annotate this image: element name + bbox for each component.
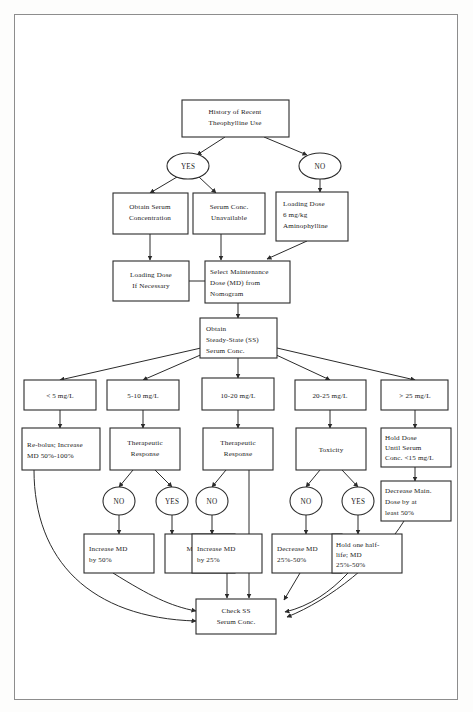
node-check-ss-line1: Check SS [222, 607, 251, 615]
edge-history-to-yes [197, 137, 225, 155]
node-loading-dose-line1: Loading Dose [283, 200, 325, 208]
node-loading-dose-line2: 6 mg/kg [283, 211, 308, 219]
node-obtain-ss-line3: Serum Conc. [206, 347, 245, 355]
node-therapeutic-b-line2: Response [224, 450, 252, 458]
node-decrease-main-line3: least 50% [385, 509, 414, 517]
edge-decrease-md-to-check-ss [284, 573, 300, 600]
node-obtain-serum-line1: Obtain Serum [129, 203, 171, 211]
node-no-history[interactable]: NO [299, 153, 341, 179]
node-yes-toxicity-label: YES [351, 498, 365, 506]
node-select-md-line1: Select Maintenance [210, 268, 268, 276]
node-check-ss-serum-conc[interactable]: Check SS Serum Conc. [196, 599, 276, 634]
edge-toxicity-to-yes [342, 470, 358, 487]
node-increase-md-50[interactable]: Increase MD by 50% [84, 534, 154, 573]
edge-hold-half-life-to-check-ss [285, 573, 348, 612]
node-range-20-25-label: 20-25 mg/L [312, 392, 347, 400]
node-decrease-maintenance-dose[interactable]: Decrease Main. Dose by at least 50% [381, 481, 451, 521]
node-rebolus-line1: Re-bolus; Increase [27, 441, 83, 449]
node-no-toxicity[interactable]: NO [290, 487, 322, 515]
edge-ss-to-gt25 [277, 348, 415, 380]
node-obtain-steady-state[interactable]: Obtain Steady-State (SS) Serum Conc. [200, 318, 277, 358]
node-increase-25-line2: by 25% [197, 556, 220, 564]
node-hold-half-line2: life; MD [336, 551, 362, 559]
node-range-10-20[interactable]: 10-20 mg/L [202, 378, 274, 410]
edge-therapeutic-a-to-no [119, 470, 133, 487]
node-serum-conc-unavailable[interactable]: Serum Conc. Unavailable [193, 193, 265, 234]
node-range-gt-25[interactable]: > 25 mg/L [381, 380, 448, 410]
node-history-line1: History of Recent [209, 108, 262, 116]
node-decrease-md-line1: Decrease MD [277, 545, 318, 553]
edge-yes-to-obtain-serum [150, 177, 177, 193]
edge-ss-to-20-25 [272, 353, 330, 380]
node-select-maintenance-dose[interactable]: Select Maintenance Dose (MD) from Nomogr… [205, 261, 290, 303]
node-decrease-main-line1: Decrease Main. [385, 487, 432, 495]
node-hold-dose-line2: Until Serum [385, 444, 422, 452]
node-yes-therapeutic-a-label: YES [165, 498, 179, 506]
node-hold-half-line3: 25%-50% [336, 561, 365, 569]
node-rebolus-increase-md[interactable]: Re-bolus; Increase MD 50%-100% [22, 428, 100, 470]
edge-loading-dose-to-select-md [267, 241, 307, 259]
node-range-5-10-label: 5-10 mg/L [127, 392, 159, 400]
edge-ss-to-5-10 [143, 353, 205, 380]
node-no-therapeutic-a-label: NO [114, 498, 125, 506]
node-therapeutic-b-line1: Therapeutic [220, 439, 256, 447]
node-range-20-25[interactable]: 20-25 mg/L [295, 380, 366, 410]
node-history-line2: Theophylline Use [208, 119, 261, 127]
edge-therapeutic-a-to-yes [155, 470, 172, 487]
node-obtain-serum-concentration[interactable]: Obtain Serum Concentration [113, 193, 188, 234]
node-yes-history[interactable]: YES [167, 153, 209, 179]
node-select-md-line2: Dose (MD) from [210, 279, 261, 287]
node-increase-25-line1: Increase MD [197, 545, 235, 553]
node-decrease-main-line2: Dose by at [385, 498, 417, 506]
node-therapeutic-a-line1: Therapeutic [127, 439, 163, 447]
node-serum-unavailable-line1: Serum Conc. [210, 203, 249, 211]
node-increase-md-25[interactable]: Increase MD by 25% [192, 534, 262, 573]
theophylline-flowchart: History of Recent Theophylline Use YES N… [0, 0, 473, 712]
node-hold-dose-line1: Hold Dose [385, 434, 417, 442]
node-hold-dose-until-serum[interactable]: Hold Dose Until Serum Conc. <15 mg/L [381, 428, 451, 467]
node-history-of-recent-use[interactable]: History of Recent Theophylline Use [182, 100, 289, 137]
node-increase-50-line1: Increase MD [89, 545, 127, 553]
node-obtain-ss-line1: Obtain [206, 325, 227, 333]
node-obtain-ss-line2: Steady-State (SS) [206, 336, 259, 344]
node-therapeutic-response-a[interactable]: Therapeutic Response [110, 428, 180, 470]
node-no-therapeutic-b-label: NO [207, 498, 218, 506]
node-range-lt5-label: < 5 mg/L [46, 392, 74, 400]
node-select-md-line3: Nomogram [210, 290, 244, 298]
node-no-history-label: NO [315, 163, 326, 171]
node-loading-dose-aminophylline[interactable]: Loading Dose 6 mg/kg Aminophylline [276, 192, 348, 241]
edge-toxicity-to-no [306, 470, 320, 487]
edge-increase50-to-check-ss [113, 573, 196, 611]
node-loading-if-necessary-line2: If Necessary [132, 282, 170, 290]
node-no-toxicity-label: NO [301, 498, 312, 506]
node-rebolus-line2: MD 50%-100% [27, 452, 74, 460]
node-loading-dose-line3: Aminophylline [283, 222, 328, 230]
node-serum-unavailable-line2: Unavailable [211, 214, 247, 222]
node-yes-toxicity[interactable]: YES [342, 487, 374, 515]
node-hold-dose-line3: Conc. <15 mg/L [385, 454, 434, 462]
node-loading-dose-if-necessary[interactable]: Loading Dose If Necessary [113, 261, 189, 301]
edge-yes-to-serum-unavailable [199, 177, 216, 193]
node-decrease-md-line2: 25%-50% [277, 556, 306, 564]
node-toxicity-label: Toxicity [319, 446, 344, 454]
node-yes-history-label: YES [181, 163, 195, 171]
node-hold-half-line1: Hold one half- [336, 541, 380, 549]
node-range-lt-5[interactable]: < 5 mg/L [24, 380, 96, 410]
node-toxicity[interactable]: Toxicity [296, 428, 366, 470]
node-loading-if-necessary-line1: Loading Dose [130, 271, 172, 279]
node-therapeutic-response-b[interactable]: Therapeutic Response [203, 428, 273, 470]
node-increase-50-line2: by 50% [89, 556, 112, 564]
edge-therapeutic-b-to-no [212, 470, 226, 487]
node-range-10-20-label: 10-20 mg/L [220, 392, 255, 400]
node-range-gt25-label: > 25 mg/L [399, 392, 430, 400]
node-yes-therapeutic-a[interactable]: YES [156, 487, 188, 515]
node-no-therapeutic-a[interactable]: NO [103, 487, 135, 515]
node-no-therapeutic-b[interactable]: NO [196, 487, 228, 515]
node-check-ss-line2: Serum Conc. [217, 618, 256, 626]
edge-history-to-no [264, 137, 307, 155]
node-hold-one-half-life[interactable]: Hold one half- life; MD 25%-50% [332, 534, 402, 573]
node-obtain-serum-line2: Concentration [129, 214, 171, 222]
scanned-page: History of Recent Theophylline Use YES N… [0, 0, 473, 712]
node-range-5-10[interactable]: 5-10 mg/L [107, 380, 179, 410]
node-therapeutic-a-line2: Response [131, 450, 159, 458]
